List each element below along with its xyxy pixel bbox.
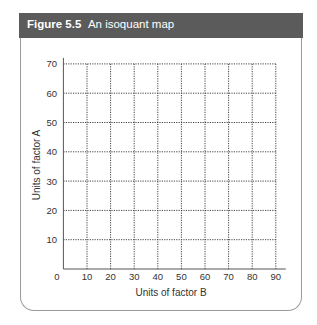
x-tick-label: 20 (105, 271, 116, 282)
y-tick-label: 50 (46, 117, 57, 128)
x-tick-label: 90 (271, 271, 282, 282)
y-tick-label: 70 (46, 58, 57, 69)
x-tick-label: 40 (153, 271, 164, 282)
x-tick-label: 50 (176, 271, 187, 282)
y-axis-label: Units of factor A (31, 129, 42, 200)
y-tick-label: 60 (46, 88, 57, 99)
x-tick-label: 10 (82, 271, 93, 282)
x-axis-label: Units of factor B (135, 287, 206, 298)
y-tick-label: 20 (46, 205, 57, 216)
x-tick-label: 80 (247, 271, 258, 282)
y-tick-label: 40 (46, 146, 57, 157)
x-tick-label: 30 (129, 271, 140, 282)
isoquant-chart: 010203040506070809010203040506070Units o… (0, 0, 317, 325)
x-tick-label: 60 (200, 271, 211, 282)
y-tick-label: 10 (46, 234, 57, 245)
x-tick-label: 70 (223, 271, 234, 282)
x-tick-label: 0 (54, 271, 59, 282)
y-tick-label: 30 (46, 176, 57, 187)
